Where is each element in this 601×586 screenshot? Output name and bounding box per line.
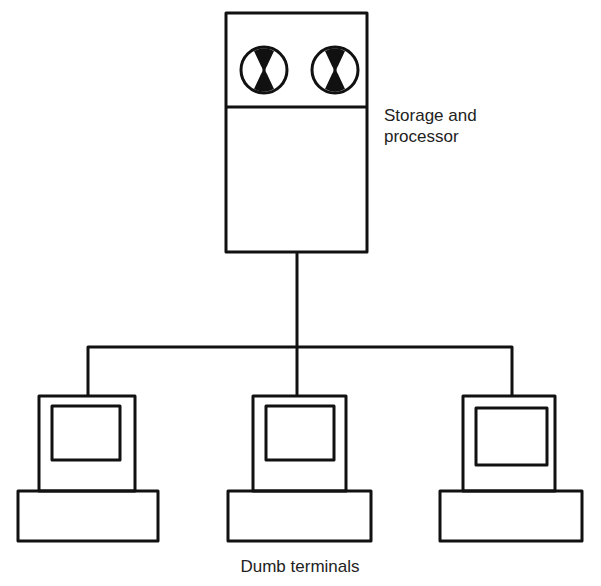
screen [266,406,334,460]
keyboard-base [228,491,371,541]
keyboard-base [18,491,158,541]
network-lines [88,252,512,396]
terminal-2 [228,396,371,541]
server-label-line2: processor [384,126,524,147]
server-label: Storage and processor [384,105,524,147]
network-diagram [0,0,601,586]
disk-reel-icon [312,47,358,93]
keyboard-base [440,491,582,541]
terminal-1 [18,396,158,541]
terminal-3 [440,396,582,541]
disk-reel-icon [241,47,287,93]
server-label-line1: Storage and [384,105,524,126]
bus-line [88,347,512,396]
terminals-label: Dumb terminals [200,556,400,577]
screen [52,406,120,460]
screen [476,408,547,465]
